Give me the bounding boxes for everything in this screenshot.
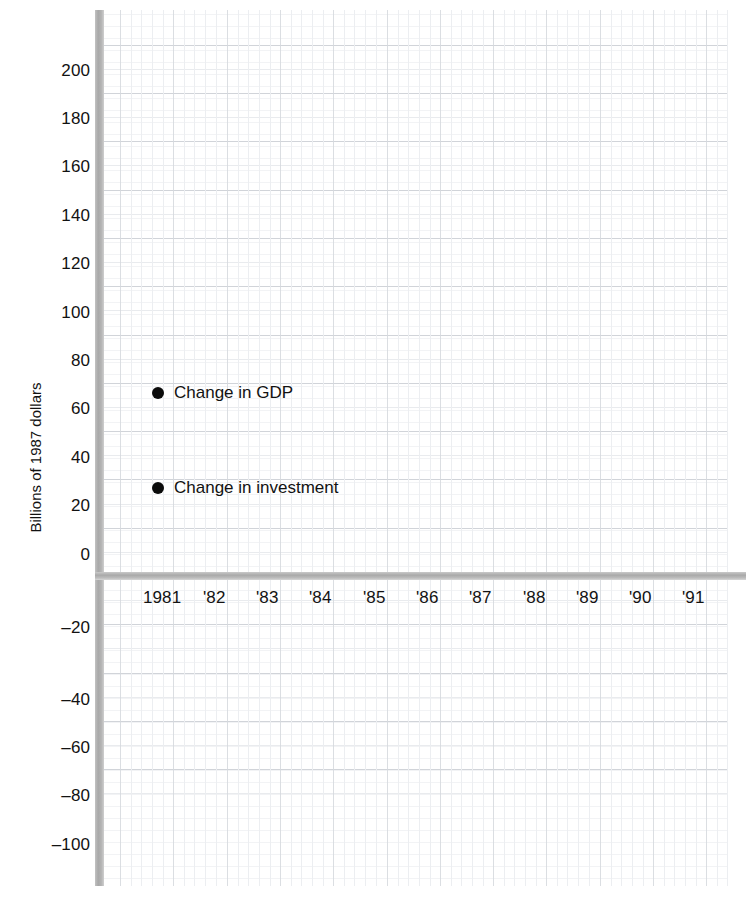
grid-line-vertical (546, 10, 547, 886)
grid-line-vertical-faint (291, 10, 292, 886)
grid-line-horizontal-faint (104, 770, 728, 771)
grid-line-horizontal-faint (104, 674, 728, 675)
grid-line-horizontal-faint (104, 194, 728, 195)
grid-line-vertical-faint (567, 10, 568, 886)
grid-line-horizontal-faint (104, 566, 728, 567)
grid-line-horizontal-faint (104, 710, 728, 711)
grid-line-vertical-faint (589, 10, 590, 886)
grid-line-horizontal (104, 552, 728, 553)
grid-line-vertical-faint (238, 10, 239, 886)
grid-line-horizontal-faint (104, 242, 728, 243)
grid-line-vertical (493, 10, 494, 886)
grid-line-horizontal-faint (104, 878, 728, 879)
grid-line-horizontal (104, 335, 728, 336)
grid-line-vertical-faint (611, 10, 612, 886)
grid-line-horizontal (104, 214, 728, 215)
grid-line-horizontal (104, 286, 728, 287)
x-axis-tick-label: '88 (523, 589, 545, 606)
grid-line-vertical-faint (717, 10, 718, 886)
grid-line-vertical-faint (674, 10, 675, 886)
grid-line-horizontal (104, 431, 728, 432)
legend-marker-circle-icon (152, 482, 164, 494)
grid-line-horizontal-faint (104, 686, 728, 687)
y-axis-tick-label: 120 (18, 255, 90, 272)
grid-line-horizontal-faint (104, 746, 728, 747)
grid-line-horizontal-faint (104, 458, 728, 459)
grid-line-horizontal-faint (104, 722, 728, 723)
grid-line-horizontal-faint (104, 290, 728, 291)
grid-line-vertical-faint (163, 10, 164, 886)
grid-line-vertical (173, 10, 174, 886)
grid-line-vertical-faint (312, 10, 313, 886)
grid-line-vertical-faint (323, 10, 324, 886)
grid-line-vertical-faint (408, 10, 409, 886)
chart-figure: 200180160140120100806040200–20–40–60–80–… (0, 0, 746, 909)
grid-line-horizontal-faint (104, 518, 728, 519)
y-axis-line (95, 10, 104, 886)
grid-line-horizontal-faint (104, 98, 728, 99)
grid-line-horizontal-faint (104, 134, 728, 135)
grid-line-horizontal (104, 455, 728, 456)
grid-line-vertical-faint (643, 10, 644, 886)
grid-line-vertical-faint (461, 10, 462, 886)
grid-line-horizontal-faint (104, 530, 728, 531)
grid-line-horizontal-faint (104, 362, 728, 363)
grid-line-horizontal-faint (104, 614, 728, 615)
grid-line-vertical-faint (365, 10, 366, 886)
grid-line-vertical-faint (184, 10, 185, 886)
x-axis-zero-line (95, 572, 746, 580)
grid-line-horizontal-faint (104, 110, 728, 111)
grid-line-horizontal-faint (104, 374, 728, 375)
grid-line-horizontal-faint (104, 254, 728, 255)
y-axis-tick-label: 160 (18, 158, 90, 175)
grid-line-horizontal-faint (104, 158, 728, 159)
grid-line-horizontal-faint (104, 830, 728, 831)
grid-line-horizontal-faint (104, 38, 728, 39)
grid-line-vertical-faint (205, 10, 206, 886)
grid-line-vertical-faint (344, 10, 345, 886)
grid-line-horizontal (104, 117, 728, 118)
grid-line-vertical-faint (685, 10, 686, 886)
grid-line-horizontal-faint (104, 74, 728, 75)
grid-line-horizontal (104, 190, 728, 191)
grid-line-vertical-faint (632, 10, 633, 886)
legend-marker-circle-icon (152, 387, 164, 399)
grid-line-vertical (120, 10, 121, 886)
grid-line-horizontal-faint (104, 782, 728, 783)
grid-line-horizontal-faint (104, 506, 728, 507)
y-axis-tick-label: 140 (18, 207, 90, 224)
grid-line-horizontal-faint (104, 206, 728, 207)
grid-line-horizontal-faint (104, 326, 728, 327)
legend-item-label: Change in investment (174, 479, 338, 496)
grid-line-horizontal (104, 310, 728, 311)
grid-line-horizontal-faint (104, 446, 728, 447)
plot-area (104, 10, 728, 886)
grid-line-horizontal-faint (104, 698, 728, 699)
grid-line-vertical-faint (664, 10, 665, 886)
x-axis-tick-label: 1981 (143, 589, 181, 606)
grid-line-horizontal-faint (104, 26, 728, 27)
grid-line-horizontal-faint (104, 230, 728, 231)
grid-line-horizontal-faint (104, 806, 728, 807)
grid-line-horizontal (104, 165, 728, 166)
grid-line-vertical (600, 10, 601, 886)
grid-line-vertical-faint (131, 10, 132, 886)
y-axis-tick-label: –60 (18, 739, 90, 756)
grid-line-horizontal-faint (104, 626, 728, 627)
grid-line-vertical-faint (525, 10, 526, 886)
grid-line-horizontal-faint (104, 434, 728, 435)
x-axis-tick-label: '82 (203, 589, 225, 606)
grid-line-horizontal (104, 69, 728, 70)
grid-line-horizontal (104, 93, 728, 94)
grid-line-horizontal (104, 624, 728, 625)
y-axis-tick-label: –100 (18, 836, 90, 853)
grid-line-horizontal-faint (104, 758, 728, 759)
grid-line-vertical-faint (398, 10, 399, 886)
grid-line-vertical-faint (301, 10, 302, 886)
grid-line-vertical (227, 10, 228, 886)
grid-line-vertical-faint (194, 10, 195, 886)
grid-line-horizontal-faint (104, 842, 728, 843)
grid-line-horizontal-faint (104, 122, 728, 123)
grid-line-vertical-faint (216, 10, 217, 886)
grid-line-horizontal (104, 648, 728, 649)
